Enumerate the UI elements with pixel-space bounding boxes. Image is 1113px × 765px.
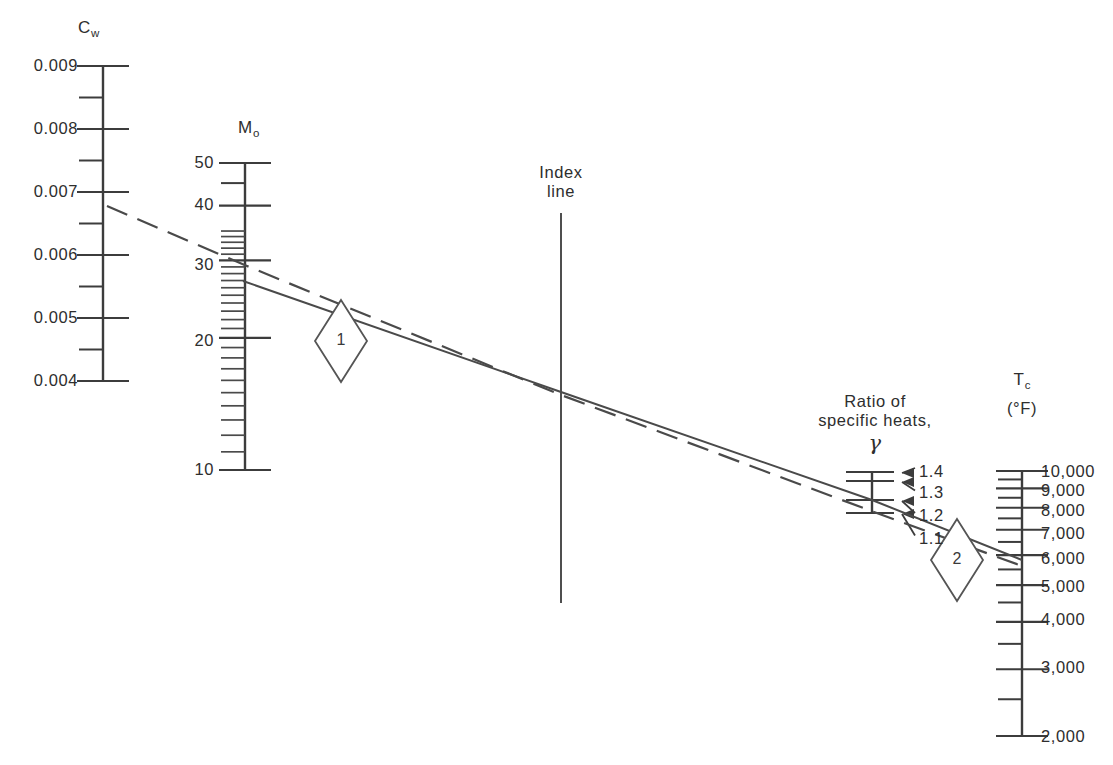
tc-tick-label: 6,000 bbox=[1041, 549, 1085, 568]
axis-title-gamma: Ratio of specific heats, γ bbox=[795, 392, 955, 456]
nomogram-canvas bbox=[0, 0, 1113, 765]
axis-title-cw: Cw bbox=[78, 18, 99, 41]
arrow-head-1.2 bbox=[902, 496, 914, 506]
gamma-tick-label: 1.2 bbox=[919, 506, 944, 525]
gamma-tick-label: 1.4 bbox=[919, 462, 944, 481]
nomogram-figure: Cw 0.009 0.008 0.007 0.006 0.005 0.004 M… bbox=[0, 0, 1113, 765]
mo-tick-label: 50 bbox=[150, 153, 214, 172]
cw-tick-label: 0.005 bbox=[0, 308, 78, 327]
cw-tick-label: 0.008 bbox=[0, 119, 78, 138]
marker-label-2: 2 bbox=[942, 550, 972, 568]
tc-tick-label: 4,000 bbox=[1041, 610, 1085, 629]
cw-tick-label: 0.006 bbox=[0, 245, 78, 264]
gamma-tick-label: 1.1 bbox=[919, 529, 944, 548]
tc-tick-label: 7,000 bbox=[1041, 524, 1085, 543]
arrow-head-1.4 bbox=[902, 468, 914, 478]
tc-tick-label: 8,000 bbox=[1041, 501, 1085, 520]
cw-tick-label: 0.004 bbox=[0, 371, 78, 390]
axis-title-tc: Tc bbox=[972, 370, 1072, 393]
cw-tick-label: 0.009 bbox=[0, 56, 78, 75]
gamma-symbol: γ bbox=[868, 431, 881, 455]
mo-tick-label: 40 bbox=[150, 195, 214, 214]
mo-tick-label: 20 bbox=[150, 331, 214, 350]
tc-tick-label: 9,000 bbox=[1041, 481, 1085, 500]
tc-tick-label: 3,000 bbox=[1041, 658, 1085, 677]
tc-tick-label: 5,000 bbox=[1041, 577, 1085, 596]
axis-title-mo: Mo bbox=[238, 118, 259, 141]
mo-tick-label: 10 bbox=[150, 460, 214, 479]
mo-tick-label: 30 bbox=[150, 255, 214, 274]
marker-label-1: 1 bbox=[326, 331, 356, 349]
tc-tick-label: 10,000 bbox=[1041, 462, 1095, 481]
index-line-label: Index line bbox=[511, 163, 611, 202]
axis-units-tc: (°F) bbox=[972, 399, 1072, 418]
cw-tick-label: 0.007 bbox=[0, 182, 78, 201]
gamma-tick-label: 1.3 bbox=[919, 483, 944, 502]
tc-tick-label: 2,000 bbox=[1041, 727, 1085, 746]
